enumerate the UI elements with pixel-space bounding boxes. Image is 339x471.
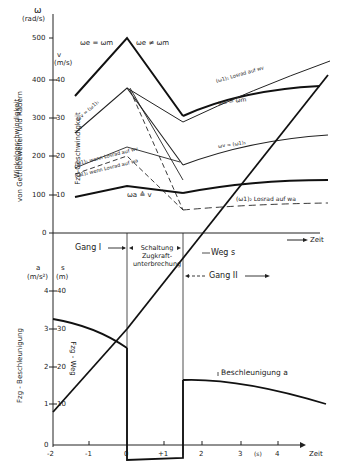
v-tick-10: 10: [56, 192, 65, 199]
omega-tick-400: 400: [32, 77, 45, 84]
omega-tick-0: 0: [42, 230, 46, 237]
v-unit: (m/s): [54, 60, 72, 67]
x-tick-m1: -1: [85, 451, 92, 458]
upper-ylabel-2: von Getriebewellen und Rädern: [17, 87, 24, 207]
v-tick-40: 40: [56, 77, 65, 84]
label-we-neq-wm: ωe ≠ ωm: [136, 40, 169, 47]
s-label: s: [61, 265, 65, 272]
x-tick-3: 3: [238, 451, 242, 458]
schaltung-line2: Zugkraft-: [133, 252, 181, 260]
label-beschleunigung: Beschleunigung a: [221, 369, 288, 377]
s-tick-40: 40: [57, 288, 66, 295]
omega-tick-500: 500: [32, 35, 45, 42]
v-tick-20: 20: [56, 153, 65, 160]
x-tick-p1: +1: [158, 451, 168, 458]
omega-label: ω: [34, 6, 42, 15]
x-tick-0: 0: [124, 451, 128, 458]
label-schaltung: Schaltung Zugkraft- unterbrechung: [133, 244, 181, 268]
label-we-eq-wm-right: ωe = ωm: [218, 96, 247, 105]
s-unit: (m): [56, 274, 68, 281]
a-tick-3: 3: [44, 326, 48, 333]
omega-tick-100: 100: [32, 192, 45, 199]
label-gang1: Gang I: [75, 244, 101, 252]
omega-tick-300: 300: [32, 115, 45, 122]
s-tick-30: 30: [57, 326, 66, 333]
label-wv-eq-w1: ωv = (ω1)₁: [218, 140, 246, 149]
a-tick-1: 1: [44, 401, 48, 408]
s-tick-20: 20: [57, 364, 66, 371]
v-tick-30: 30: [56, 115, 65, 122]
label-gang2: Gang II: [209, 272, 238, 280]
v-label: v: [57, 52, 61, 59]
lower-zeit: Zeit: [309, 451, 323, 458]
a-label: a: [36, 265, 40, 272]
a-unit: (m/s²): [27, 274, 48, 281]
label-we-eq-wm: ωe = ωm: [80, 40, 113, 47]
x-unit: (s): [254, 451, 262, 457]
label-wa-eq-v: ωa ≙ v: [127, 192, 152, 199]
x-tick-4: 4: [275, 451, 279, 458]
schaltung-line3: unterbrechung: [133, 260, 181, 268]
x-tick-m2: -2: [47, 451, 54, 458]
schaltung-line1: Schaltung: [133, 244, 181, 252]
label-weg-s: Weg s: [211, 249, 235, 257]
a-tick-4: 4: [44, 288, 48, 295]
a-tick-0: 0: [44, 442, 48, 449]
omega-tick-200: 200: [32, 153, 45, 160]
s-tick-10: 10: [57, 401, 66, 408]
label-upper-zeit: Zeit: [310, 237, 324, 244]
lower-ylabel: Fzg - Beschleunigung: [17, 326, 24, 406]
label-w1-losrad-wa: (ω1)₂ Losrad auf wa: [236, 196, 296, 202]
label-w1-losrad-wv: (ω1)₁ Losrad auf wv: [215, 65, 264, 84]
omega-unit: (rad/s): [22, 16, 45, 23]
lower-ylabel-inner: Fzg - Weg: [69, 339, 76, 379]
x-tick-2: 2: [199, 451, 203, 458]
a-tick-2: 2: [44, 364, 48, 371]
